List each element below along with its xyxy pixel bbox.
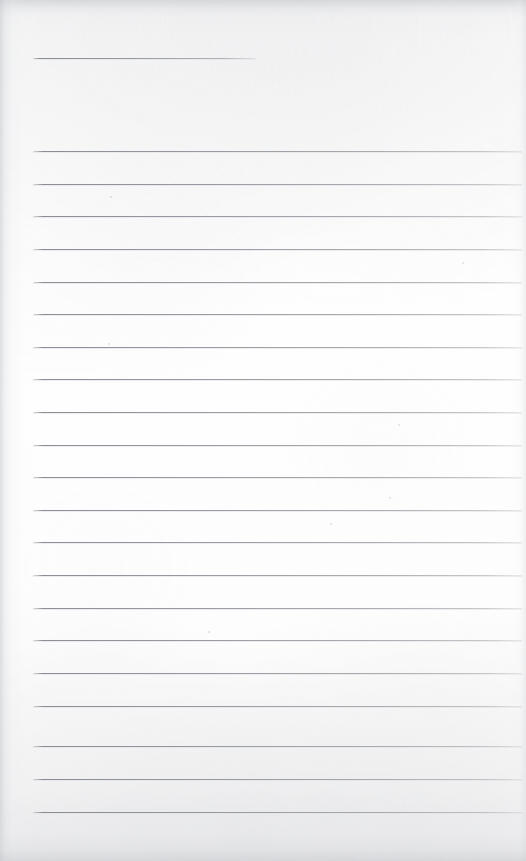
ruled-line bbox=[33, 812, 522, 813]
scan-shadow-top bbox=[0, 0, 526, 30]
ruled-line bbox=[33, 282, 522, 283]
ruled-line bbox=[33, 184, 522, 185]
ruled-line bbox=[33, 445, 522, 446]
ruled-line bbox=[33, 673, 522, 674]
ruled-line bbox=[33, 575, 522, 576]
ruled-line bbox=[33, 477, 522, 478]
ruled-line bbox=[33, 510, 522, 511]
ruled-line bbox=[33, 216, 522, 217]
ruled-line bbox=[33, 249, 522, 250]
ruled-line bbox=[33, 640, 522, 641]
ruled-line bbox=[33, 379, 522, 380]
paper-background bbox=[0, 0, 526, 861]
ruled-line bbox=[33, 412, 522, 413]
ruled-line bbox=[33, 347, 522, 348]
ruled-line bbox=[33, 314, 522, 315]
scan-shadow-left bbox=[0, 0, 26, 861]
ruled-line bbox=[33, 779, 522, 780]
scan-shadow-bottom bbox=[0, 809, 526, 861]
ruled-line bbox=[33, 542, 522, 543]
ruled-line bbox=[33, 706, 522, 707]
ruled-line bbox=[33, 746, 522, 747]
header-rule-line bbox=[33, 58, 256, 59]
scanned-page bbox=[0, 0, 526, 861]
ruled-line bbox=[33, 151, 522, 152]
ruled-line bbox=[33, 608, 522, 609]
scan-shadow-right bbox=[512, 0, 526, 861]
